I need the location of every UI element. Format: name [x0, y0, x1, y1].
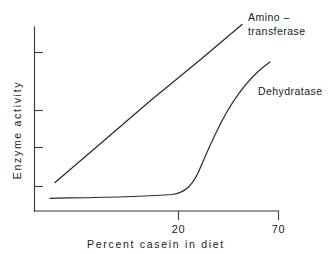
x-axis-title: Percent casein in diet	[87, 238, 225, 250]
y-axis-title: Enzyme activity	[11, 81, 23, 179]
series-label-amino-transferase-line1: Amino –	[248, 11, 290, 23]
chart-figure: 20 70 Percent casein in diet Enzyme acti…	[0, 0, 329, 254]
series-line-amino-transferase	[55, 25, 242, 183]
series-label-dehydratase: Dehydratase	[258, 85, 322, 97]
x-tick-label-70: 70	[272, 223, 285, 235]
enzyme-activity-line-chart: 20 70 Percent casein in diet Enzyme acti…	[0, 0, 329, 254]
x-tick-label-20: 20	[172, 223, 185, 235]
series-label-amino-transferase-line2: transferase	[248, 25, 305, 37]
series-line-dehydratase	[50, 62, 270, 198]
